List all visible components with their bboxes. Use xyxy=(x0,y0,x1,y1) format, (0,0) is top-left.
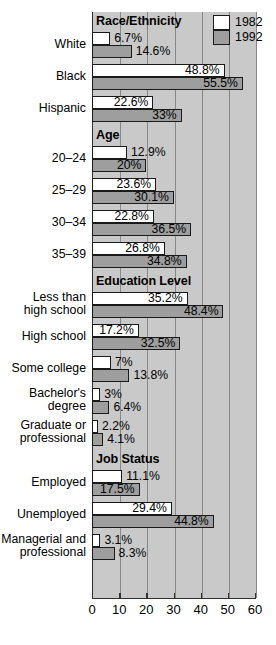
bar-value-label: 6.4% xyxy=(113,401,141,414)
legend-swatch-1992 xyxy=(213,30,230,45)
category-label: Black xyxy=(0,70,86,83)
bar-value-label: 17.2% xyxy=(92,324,134,337)
legend-swatch-1982 xyxy=(213,15,230,30)
bar-1982 xyxy=(92,356,111,369)
x-axis: 0102030405060 xyxy=(0,598,276,622)
section-title: Job Status xyxy=(96,452,159,466)
bar-value-label: 36.5% xyxy=(92,223,186,236)
x-tick-10 xyxy=(119,593,120,598)
bar-value-label: 13.8% xyxy=(133,369,168,382)
category-label: Hispanic xyxy=(0,102,86,115)
x-tick-label: 50 xyxy=(221,602,235,617)
category-label: 35–39 xyxy=(0,248,86,261)
category-label: White xyxy=(0,38,86,51)
category-label: 30–34 xyxy=(0,216,86,229)
bar-1992 xyxy=(92,401,109,414)
x-tick-60 xyxy=(255,593,256,598)
bar-value-label: 34.8% xyxy=(92,255,182,268)
bar-value-label: 8.3% xyxy=(119,547,147,560)
bar-value-label: 29.4% xyxy=(92,502,167,515)
bar-1982 xyxy=(92,388,100,401)
bar-value-label: 14.6% xyxy=(136,45,171,58)
category-label: Graduate or professional xyxy=(0,419,86,446)
x-tick-label: 10 xyxy=(112,602,126,617)
bar-1982 xyxy=(92,32,110,45)
category-label: Some college xyxy=(0,362,86,375)
bar-value-label: 7% xyxy=(115,356,133,369)
grouped-bar-chart: 1982 1992 0102030405060 Race/EthnicityWh… xyxy=(0,0,276,645)
bar-value-label: 17.5% xyxy=(92,483,135,496)
x-tick-label: 0 xyxy=(88,602,95,617)
category-label: 20–24 xyxy=(0,152,86,165)
category-label: High school xyxy=(0,330,86,343)
category-label: Less than high school xyxy=(0,291,86,318)
bar-value-label: 32.5% xyxy=(92,337,175,350)
x-tick-20 xyxy=(146,593,147,598)
bar-value-label: 30.1% xyxy=(92,191,169,204)
category-label: 25–29 xyxy=(0,184,86,197)
gridline-60 xyxy=(256,12,257,598)
bar-1992 xyxy=(92,369,129,382)
bar-value-label: 20% xyxy=(92,159,141,172)
bar-1982 xyxy=(92,146,127,159)
bar-1992 xyxy=(92,433,103,446)
category-label: Unemployed xyxy=(0,508,86,521)
section-title: Education Level xyxy=(96,274,191,288)
category-label: Bachelor's degree xyxy=(0,387,86,414)
section-title: Race/Ethnicity xyxy=(96,14,181,28)
bar-value-label: 44.8% xyxy=(92,515,209,528)
x-tick-label: 20 xyxy=(139,602,153,617)
x-tick-30 xyxy=(174,593,175,598)
legend-label-1982: 1982 xyxy=(235,15,263,30)
bar-1982 xyxy=(92,534,100,547)
bar-1982 xyxy=(92,420,98,433)
x-tick-40 xyxy=(201,593,202,598)
bar-1992 xyxy=(92,45,132,58)
x-tick-50 xyxy=(228,593,229,598)
bar-value-label: 33% xyxy=(92,109,177,122)
bar-value-label: 4.1% xyxy=(107,433,135,446)
gridline-50 xyxy=(229,12,230,598)
category-label: Employed xyxy=(0,476,86,489)
section-title: Age xyxy=(96,128,120,142)
x-tick-label: 60 xyxy=(248,602,262,617)
bar-value-label: 48.8% xyxy=(92,64,220,77)
bar-value-label: 22.6% xyxy=(92,96,148,109)
chart-legend: 1982 1992 xyxy=(213,15,273,49)
x-tick-0 xyxy=(92,593,93,598)
bar-value-label: 48.4% xyxy=(92,305,218,318)
bar-value-label: 22.8% xyxy=(92,210,149,223)
x-tick-label: 40 xyxy=(193,602,207,617)
legend-label-1992: 1992 xyxy=(235,30,263,45)
category-label: Managerial and professional xyxy=(0,533,86,560)
x-tick-label: 30 xyxy=(166,602,180,617)
bar-value-label: 35.2% xyxy=(92,292,183,305)
bar-value-label: 55.5% xyxy=(92,77,238,90)
bar-1982 xyxy=(92,470,122,483)
bar-1992 xyxy=(92,547,115,560)
